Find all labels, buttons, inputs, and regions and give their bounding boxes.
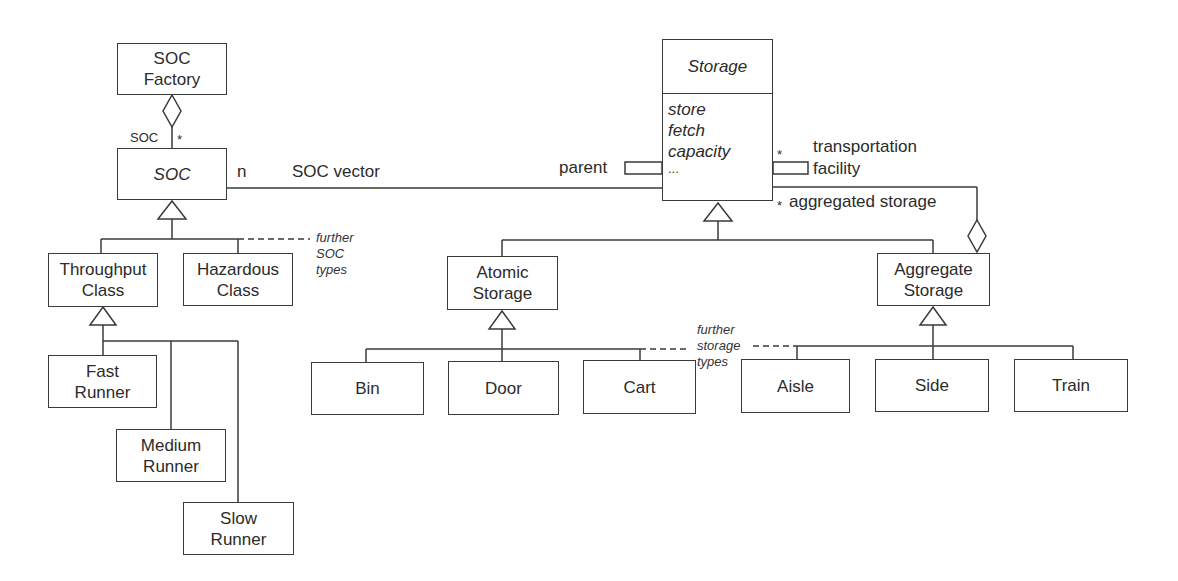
multiplicity-star-transport: * [777, 145, 782, 165]
aggregation-diamond-factory [163, 95, 181, 127]
class-soc: SOC [117, 148, 227, 200]
generalization-triangle-soc [158, 201, 186, 219]
note-further-storage-types: further storage types [697, 322, 740, 370]
class-side: Side [875, 359, 989, 412]
operation-capacity: capacity [668, 141, 730, 162]
class-cart: Cart [583, 360, 696, 414]
association-label-transportation-facility: transportation facility [813, 136, 917, 180]
class-name-line: SOC [154, 48, 191, 69]
operation-ellipsis: ... [668, 162, 730, 176]
class-name: Storage [688, 56, 748, 77]
class-atomic-storage: Atomic Storage [447, 256, 558, 310]
class-bin: Bin [311, 362, 424, 415]
class-soc-factory: SOC Factory [117, 43, 227, 95]
generalization-triangle-atomic [489, 311, 515, 329]
class-name-line: Factory [144, 69, 201, 90]
class-aggregate-storage: Aggregate Storage [877, 253, 990, 306]
class-medium-runner: Medium Runner [116, 429, 226, 482]
class-storage-operations: store fetch capacity ... [668, 99, 730, 176]
generalization-triangle-storage [704, 203, 732, 221]
qualifier-label-parent: parent [559, 158, 607, 178]
class-storage: Storage store fetch capacity ... [662, 39, 773, 201]
generalization-triangle-throughput [90, 307, 116, 325]
class-aisle: Aisle [741, 359, 850, 413]
class-fast-runner: Fast Runner [48, 355, 157, 408]
multiplicity-star-factory: * [177, 130, 182, 150]
role-label-soc: SOC [130, 128, 158, 148]
association-label-soc-vector: SOC vector [292, 162, 380, 182]
aggregation-diamond-storage [968, 220, 986, 252]
multiplicity-star-aggregated: * [777, 196, 782, 216]
multiplicity-n: n [237, 162, 246, 182]
operation-fetch: fetch [668, 120, 730, 141]
class-train: Train [1014, 359, 1128, 412]
class-storage-name-compartment: Storage [663, 40, 772, 94]
class-door: Door [448, 361, 559, 415]
class-hazardous-class: Hazardous Class [183, 253, 293, 306]
generalization-triangle-aggregate [920, 307, 946, 325]
operation-store: store [668, 99, 730, 120]
class-name: SOC [154, 164, 191, 185]
class-slow-runner: Slow Runner [183, 502, 294, 555]
note-further-soc-types: further SOC types [316, 230, 354, 278]
parent-qualifier [625, 162, 662, 174]
class-throughput-class: Throughput Class [48, 253, 158, 307]
association-label-aggregated-storage: aggregated storage [789, 192, 936, 212]
